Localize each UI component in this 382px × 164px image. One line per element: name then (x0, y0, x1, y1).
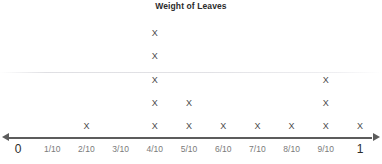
x-mark: X (148, 99, 162, 108)
x-mark: X (250, 122, 264, 131)
axis-tick-label: 4/10 (137, 143, 173, 155)
axis-tick-label: 7/10 (239, 143, 275, 155)
dot-plot-chart: Weight of Leaves XXXXXXXXXXXXXXX 01/102/… (0, 0, 382, 164)
x-mark: X (148, 122, 162, 131)
axis-tick-label: 9/10 (308, 143, 344, 155)
x-mark: X (216, 122, 230, 131)
x-mark: X (148, 76, 162, 85)
axis-tick-label: 0 (0, 143, 36, 156)
x-mark: X (148, 52, 162, 61)
axis-tick-label: 8/10 (274, 143, 310, 155)
x-mark: X (182, 99, 196, 108)
axis-tick-label: 5/10 (171, 143, 207, 155)
plot-area: XXXXXXXXXXXXXXX (0, 0, 382, 140)
axis-tick-label: 1 (342, 143, 378, 156)
x-mark: X (148, 29, 162, 38)
x-mark: X (319, 122, 333, 131)
x-mark: X (285, 122, 299, 131)
axis-tick-label: 2/10 (68, 143, 104, 155)
x-mark: X (182, 122, 196, 131)
axis-tick-label: 6/10 (205, 143, 241, 155)
x-mark: X (319, 99, 333, 108)
axis-tick-label: 1/10 (34, 143, 70, 155)
x-mark: X (353, 122, 367, 131)
axis-arrow-right-icon (373, 133, 380, 141)
axis-line (8, 137, 372, 139)
axis-tick-labels: 01/102/103/104/105/106/107/108/109/101 (0, 143, 382, 161)
x-mark: X (319, 76, 333, 85)
axis-tick-label: 3/10 (103, 143, 139, 155)
axis-arrow-left-icon (2, 133, 9, 141)
x-mark: X (79, 122, 93, 131)
